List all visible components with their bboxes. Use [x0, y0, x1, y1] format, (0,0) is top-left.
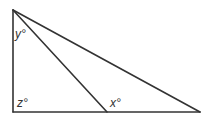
triangle-diagram: y° z° x°: [0, 0, 210, 123]
angle-label-x: x°: [109, 96, 121, 110]
angle-label-y: y°: [14, 27, 26, 41]
hypotenuse: [13, 10, 200, 112]
angle-label-z: z°: [16, 96, 28, 110]
